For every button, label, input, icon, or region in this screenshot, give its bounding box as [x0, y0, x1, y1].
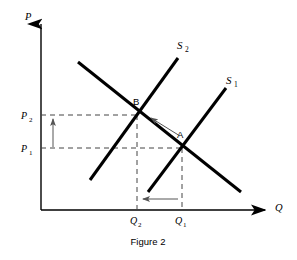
x-tick-q2-base: Q: [130, 215, 138, 226]
supply-curve-s1: [148, 88, 226, 192]
curve-label-s2-sub: 2: [185, 45, 189, 54]
x-axis-label: Q: [275, 202, 283, 213]
supply-demand-diagram: P Q S 2 S 1 B A P 2: [0, 0, 297, 260]
figure-caption: Figure 2: [131, 236, 166, 247]
curve-label-s2-base: S: [177, 39, 183, 51]
figure-container: P Q S 2 S 1 B A P 2: [0, 0, 297, 260]
x-tick-q2: Q 2: [130, 215, 142, 229]
supply-curve-s2: [90, 58, 178, 180]
x-tick-q2-sub: 2: [138, 221, 142, 229]
curve-label-s1-sub: 1: [234, 80, 238, 89]
y-tick-p2-base: P: [20, 110, 27, 121]
point-label-b: B: [133, 96, 139, 107]
y-tick-p1: P 1: [20, 143, 33, 157]
curves-group: [78, 58, 241, 192]
x-tick-q1: Q 1: [175, 215, 187, 229]
x-tick-q1-sub: 1: [183, 221, 187, 229]
y-axis-label: P: [24, 11, 32, 22]
annotation-arrows-group: [53, 118, 180, 199]
curve-label-s1-base: S: [226, 74, 232, 86]
curve-label-s1: S 1: [226, 74, 238, 89]
y-tick-p1-base: P: [20, 143, 27, 154]
y-tick-p1-sub: 1: [29, 149, 33, 157]
axes-group: [41, 24, 265, 210]
curve-label-s2: S 2: [177, 39, 189, 54]
y-tick-p2: P 2: [20, 110, 33, 124]
x-tick-q1-base: Q: [175, 215, 183, 226]
y-tick-p2-sub: 2: [29, 116, 33, 124]
